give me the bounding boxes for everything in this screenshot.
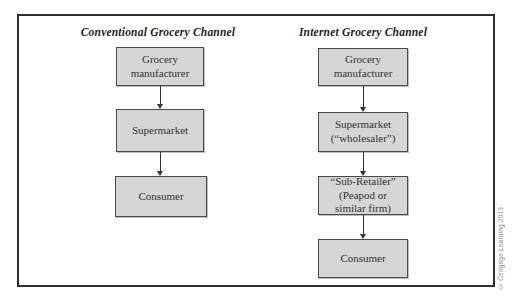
down-arrow	[156, 152, 164, 176]
diagram-frame	[17, 14, 495, 287]
diagram-canvas: Conventional Grocery Channel Grocery man…	[0, 0, 517, 302]
down-arrow	[359, 152, 367, 176]
arrow-line	[363, 86, 364, 107]
down-arrow	[156, 86, 164, 109]
copyright-credit: © Cengage Learning 2013	[497, 188, 504, 290]
flow-box-conventional-grocery-manufacturer: Grocery manufacturer	[116, 47, 204, 86]
column-title-internet: Internet Grocery Channel	[263, 26, 463, 38]
arrow-line	[363, 152, 364, 171]
arrow-line	[160, 86, 161, 104]
flow-box-conventional-supermarket: Supermarket	[116, 109, 204, 152]
arrow-line	[160, 152, 161, 171]
column-title-conventional: Conventional Grocery Channel	[58, 26, 258, 38]
arrow-line	[363, 215, 364, 234]
down-arrow	[359, 215, 367, 239]
flow-box-internet-sub-retailer: “Sub-Retailer” (Peapod or similar firm)	[318, 176, 408, 215]
flow-box-internet-consumer: Consumer	[318, 239, 408, 278]
flow-box-internet-supermarket-wholesaler: Supermarket (“wholesaler”)	[318, 112, 408, 152]
down-arrow	[359, 86, 367, 112]
flow-box-internet-grocery-manufacturer: Grocery manufacturer	[318, 48, 408, 86]
flow-box-conventional-consumer: Consumer	[115, 176, 207, 217]
